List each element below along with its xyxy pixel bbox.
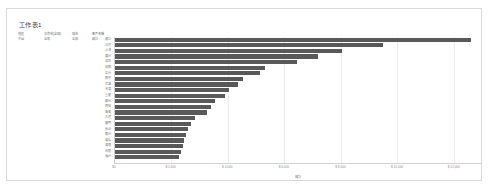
bar[interactable] — [115, 138, 184, 142]
x-tick-label: $ 8,000 — [335, 165, 345, 169]
x-axis-title: 總計 — [114, 174, 482, 179]
pivot-filter-city[interactable]: 城市 全部 — [72, 32, 78, 42]
bar[interactable] — [115, 99, 215, 103]
bar[interactable] — [115, 88, 229, 92]
pivot-filter-region-value: 中國 — [18, 37, 24, 42]
worksheet-frame: 工作表1 地區 中國 北京市(全部) 全部 城市 全部 客戶名稱 總計 總計北京… — [6, 8, 482, 181]
bar-row — [115, 154, 482, 160]
x-tick-label: $ 10,000 — [391, 165, 403, 169]
bar[interactable] — [115, 116, 195, 120]
bar[interactable] — [115, 144, 183, 148]
x-tick-label: $ 12,000 — [448, 165, 460, 169]
x-axis-tick-labels: $0$ 2,000$ 4,000$ 6,000$ 8,000$ 10,000$ … — [114, 165, 482, 173]
bar[interactable] — [115, 122, 191, 126]
x-axis-line — [114, 163, 482, 164]
bar[interactable] — [115, 94, 225, 98]
excel-worksheet-screenshot: 工作表1 地區 中國 北京市(全部) 全部 城市 全部 客戶名稱 總計 總計北京… — [0, 0, 488, 190]
x-tick-label: $ 2,000 — [165, 165, 175, 169]
x-tick-label: $0 — [112, 165, 115, 169]
bar[interactable] — [115, 54, 318, 58]
bar[interactable] — [115, 43, 383, 47]
bar[interactable] — [115, 110, 207, 114]
bar[interactable] — [115, 155, 179, 159]
bar-series — [115, 37, 482, 163]
pivot-filter-province[interactable]: 北京市(全部) 全部 — [44, 32, 61, 42]
bar[interactable] — [115, 150, 181, 154]
bar[interactable] — [115, 60, 297, 64]
sheet-title: 工作表1 — [19, 20, 42, 29]
pivot-bar-chart[interactable]: 總計北京上海廣州深圳成都杭州南京武漢天津重慶蘇州西安青島大連廈門長沙鄭州瀋陽濟南… — [81, 35, 483, 185]
bar[interactable] — [115, 133, 186, 137]
x-tick-label: $ 4,000 — [222, 165, 232, 169]
bar[interactable] — [115, 71, 260, 75]
x-tick-label: $ 6,000 — [279, 165, 289, 169]
category-axis: 總計北京上海廣州深圳成都杭州南京武漢天津重慶蘇州西安青島大連廈門長沙鄭州瀋陽濟南… — [81, 37, 113, 163]
pivot-filter-province-value: 全部 — [44, 37, 61, 42]
pivot-filter-region[interactable]: 地區 中國 — [18, 32, 24, 42]
plot-area — [114, 37, 482, 163]
bar[interactable] — [115, 66, 265, 70]
bar[interactable] — [115, 38, 471, 42]
pivot-filter-city-value: 全部 — [72, 37, 78, 42]
bar[interactable] — [115, 105, 211, 109]
category-label: 福州 — [81, 154, 113, 160]
bar[interactable] — [115, 127, 188, 131]
bar[interactable] — [115, 49, 342, 53]
bar[interactable] — [115, 82, 238, 86]
bar[interactable] — [115, 77, 243, 81]
